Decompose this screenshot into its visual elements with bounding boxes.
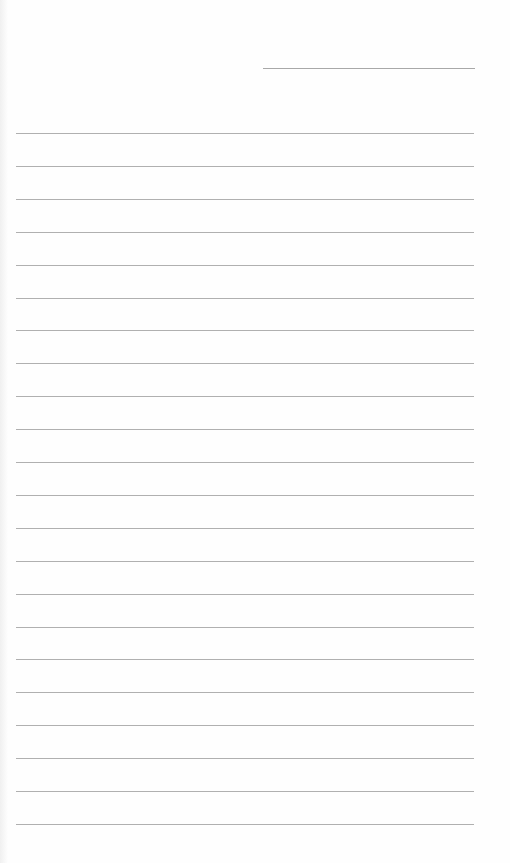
ruled-line (16, 298, 474, 299)
ruled-line (16, 758, 474, 759)
page-edge-shadow (0, 0, 8, 863)
header-name-line (263, 68, 475, 69)
ruled-line (16, 692, 474, 693)
ruled-line (16, 528, 474, 529)
ruled-line (16, 199, 474, 200)
ruled-line (16, 594, 474, 595)
ruled-line (16, 495, 474, 496)
ruled-line (16, 166, 474, 167)
ruled-line (16, 232, 474, 233)
ruled-line (16, 265, 474, 266)
ruled-line (16, 133, 474, 134)
lined-paper-page (0, 0, 510, 863)
ruled-line (16, 725, 474, 726)
ruled-line (16, 429, 474, 430)
ruled-line (16, 330, 474, 331)
ruled-line (16, 363, 474, 364)
ruled-line (16, 791, 474, 792)
ruled-line (16, 824, 474, 825)
ruled-line (16, 462, 474, 463)
ruled-line (16, 561, 474, 562)
ruled-line (16, 627, 474, 628)
ruled-line (16, 659, 474, 660)
ruled-line (16, 396, 474, 397)
